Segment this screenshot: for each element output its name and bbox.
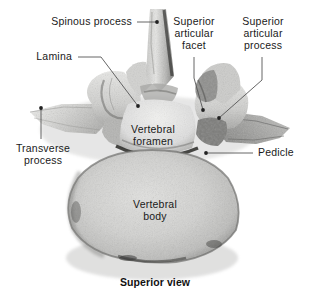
label-lamina: Lamina — [14, 51, 72, 63]
vertebra-figure: Spinous process Lamina Superior articula… — [0, 0, 310, 296]
label-transverse-process: Transverse process — [10, 143, 76, 167]
label-pedicle: Pedicle — [258, 147, 306, 159]
label-vertebral-foramen: Vertebral foramen — [120, 124, 186, 148]
label-superior-articular-process: Superior articular process — [232, 16, 294, 51]
label-spinous-process: Spinous process — [22, 16, 132, 28]
label-superior-articular-facet: Superior articular facet — [166, 16, 222, 51]
label-vertebral-body: Vertebral body — [122, 199, 188, 223]
figure-caption: Superior view — [105, 276, 205, 288]
